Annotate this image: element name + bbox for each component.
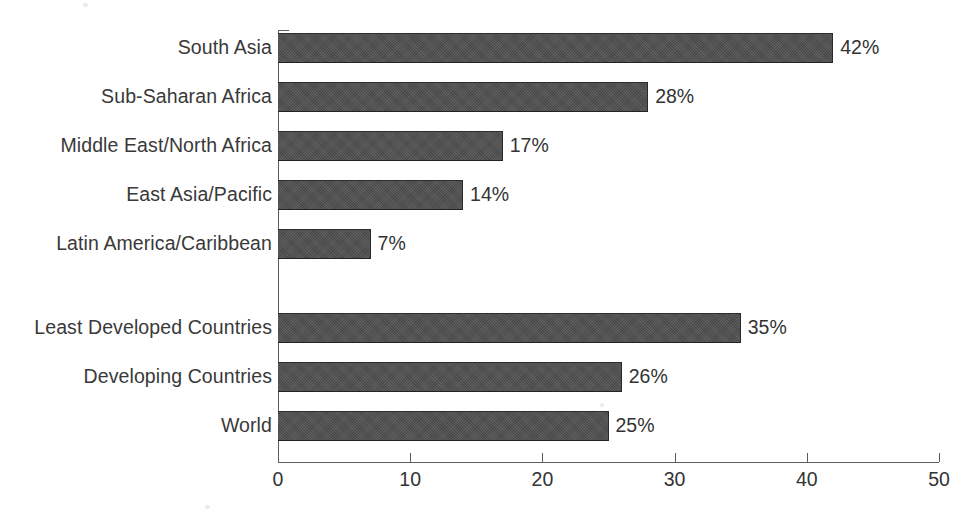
bar-latin-america-caribbean[interactable] [278,229,371,259]
bar-value-label: 7% [378,234,406,254]
bar-value-label: 35% [748,318,787,338]
category-label-east-asia-pacific: East Asia/Pacific [126,185,272,205]
category-label-latin-america-caribbean: Latin America/Caribbean [56,234,272,254]
bar-developing-countries[interactable] [278,362,622,392]
scan-speck [205,505,210,509]
category-label-world: World [221,416,272,436]
x-tick-label-0: 0 [273,470,284,490]
bar-value-label: 14% [470,185,509,205]
category-label-sub-saharan-africa: Sub-Saharan Africa [101,87,272,107]
bar-world[interactable] [278,411,609,441]
bar-sub-saharan-africa[interactable] [278,82,648,112]
x-tick-label-20: 20 [532,470,554,490]
x-tick-label-40: 40 [796,470,818,490]
x-tick-label-10: 10 [399,470,421,490]
x-tick-30 [675,453,676,462]
bar-value-label: 17% [510,136,549,156]
bar-value-label: 28% [655,87,694,107]
x-tick-20 [542,453,543,462]
x-tick-40 [807,453,808,462]
category-label-developing-countries: Developing Countries [84,367,272,387]
category-label-south-asia: South Asia [178,38,272,58]
x-tick-label-50: 50 [928,470,950,490]
category-label-middle-east-north-africa: Middle East/North Africa [60,136,272,156]
category-label-least-developed-countries: Least Developed Countries [34,318,272,338]
bar-value-label: 26% [629,367,668,387]
bar-south-asia[interactable] [278,33,833,63]
x-tick-50 [939,453,940,462]
bar-chart: South Asia Sub-Saharan Africa Middle Eas… [0,0,975,523]
x-tick-10 [410,453,411,462]
scan-speck [83,3,88,7]
bar-least-developed-countries[interactable] [278,313,741,343]
bar-middle-east-north-africa[interactable] [278,131,503,161]
bar-value-label: 42% [840,38,879,58]
bar-east-asia-pacific[interactable] [278,180,463,210]
plot-area: 42%28%17%14%7%35%26%25% [278,0,975,523]
bar-value-label: 25% [616,416,655,436]
x-tick-label-30: 30 [664,470,686,490]
